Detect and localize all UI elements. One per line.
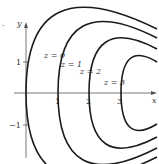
level-curves-diagram: . x y 1 −1 1 2 3 z = 0 z = 1 z = 2 z = 3 bbox=[0, 0, 159, 164]
y-tick-label-neg1: −1 bbox=[9, 121, 21, 130]
x-axis-arrow-icon bbox=[151, 91, 157, 95]
y-axis-label: y bbox=[16, 19, 22, 28]
x-axis-label: x bbox=[152, 96, 157, 105]
y-axis-arrow-icon bbox=[24, 22, 28, 28]
level-curve-z0 bbox=[26, 7, 157, 164]
y-tick-label-1: 1 bbox=[16, 58, 21, 67]
curve-label-z1: z = 1 bbox=[60, 60, 82, 69]
figure-marker: . bbox=[2, 19, 5, 28]
curve-label-z0: z = 0 bbox=[43, 51, 65, 60]
curve-label-z2: z = 2 bbox=[79, 67, 101, 76]
curve-label-z3: z = 3 bbox=[103, 78, 125, 87]
